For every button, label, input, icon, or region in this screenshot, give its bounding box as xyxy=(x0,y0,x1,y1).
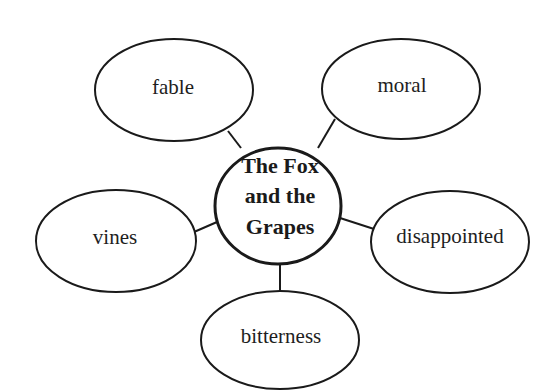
node-disappointed: disappointed xyxy=(371,191,529,293)
node-vines: vines xyxy=(36,190,196,292)
word-web-diagram: fable moral vines disappointed bitternes… xyxy=(0,0,558,391)
link-vines xyxy=(194,222,217,232)
node-moral: moral xyxy=(322,39,480,139)
center-label-line-2: and the xyxy=(245,183,316,208)
link-disappointed xyxy=(340,218,374,229)
node-disappointed-label: disappointed xyxy=(396,224,504,248)
center-label-line-1: The Fox xyxy=(241,153,319,178)
center-label-line-3: Grapes xyxy=(246,214,315,239)
link-moral xyxy=(318,119,335,148)
node-bitterness-label: bitterness xyxy=(241,324,321,348)
node-vines-label: vines xyxy=(93,225,137,249)
link-fable xyxy=(228,131,241,148)
center-node: The Fox and the Grapes xyxy=(215,148,341,264)
node-moral-label: moral xyxy=(378,73,427,97)
node-bitterness: bitterness xyxy=(201,291,359,389)
node-fable-label: fable xyxy=(152,75,194,99)
node-fable: fable xyxy=(95,39,253,141)
